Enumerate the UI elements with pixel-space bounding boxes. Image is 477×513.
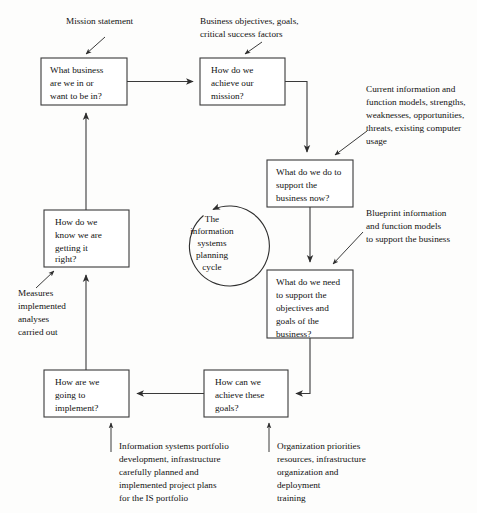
- annotation-is-portfolio-line-1: development, infrastructure: [119, 454, 221, 464]
- annotation-organization-priorities: Organization priorities resources, infra…: [269, 423, 366, 503]
- annotation-measures-implemented-pointer: [36, 271, 54, 288]
- annotation-mission-statement-line-0: Mission statement: [66, 16, 134, 26]
- annotation-organization-priorities-line-1: resources, infrastructure: [277, 454, 366, 464]
- box-what-business-line-2: want to be in?: [50, 91, 102, 101]
- annotation-business-objectives-line-1: critical success factors: [200, 29, 283, 39]
- annotation-current-information-line-3: threats, existing computer: [366, 123, 461, 133]
- box-what-do-we-need-line-2: objectives and: [276, 303, 329, 313]
- annotation-organization-priorities-line-2: organization and: [277, 467, 339, 477]
- box-how-do-we-know-line-2: getting it: [55, 243, 88, 253]
- box-achieve-these-goals-line-0: How can we: [215, 377, 261, 387]
- cycle-label-line-2: systems: [197, 238, 227, 248]
- box-support-business-now-line-0: What do we do to: [276, 167, 342, 177]
- annotation-business-objectives-pointer: [245, 42, 262, 54]
- annotation-blueprint-information-line-0: Blueprint information: [366, 208, 447, 218]
- diagram-canvas: What business are we in or want to be in…: [0, 0, 477, 513]
- annotation-organization-priorities-line-0: Organization priorities: [277, 441, 361, 451]
- annotation-measures-implemented-line-2: analyses: [18, 314, 50, 324]
- box-going-to-implement-line-1: going to: [55, 390, 86, 400]
- box-achieve-these-goals-line-1: achieve these: [215, 390, 264, 400]
- annotation-current-information-line-0: Current information and: [366, 84, 456, 94]
- annotation-business-objectives: Business objectives, goals, critical suc…: [200, 16, 299, 54]
- annotation-measures-implemented-line-0: Measures: [18, 288, 54, 298]
- box-support-business-now-line-1: support the: [276, 180, 317, 190]
- box-what-business-line-0: What business: [50, 65, 104, 75]
- box-what-do-we-need-line-0: What do we need: [276, 277, 340, 287]
- annotation-is-portfolio-line-3: implemented project plans: [119, 480, 217, 490]
- annotation-is-portfolio: Information systems portfolio developmen…: [111, 423, 229, 503]
- annotation-measures-implemented-line-1: implemented: [18, 301, 66, 311]
- box-what-business[interactable]: What business are we in or want to be in…: [41, 58, 127, 105]
- annotation-current-information-line-4: usage: [366, 136, 387, 146]
- annotation-business-objectives-line-0: Business objectives, goals,: [200, 16, 299, 26]
- annotation-is-portfolio-line-4: for the IS portfolio: [119, 493, 189, 503]
- annotation-organization-priorities-line-4: training: [277, 493, 306, 503]
- cycle-label-line-1: information: [190, 226, 234, 236]
- cycle-label-line-3: planning: [196, 250, 229, 260]
- annotation-mission-statement: Mission statement: [66, 16, 134, 54]
- connector-what-need-to-achieve-goals: [296, 338, 310, 394]
- box-going-to-implement[interactable]: How are we going to implement?: [44, 370, 129, 417]
- box-achieve-mission-line-0: How do we: [211, 65, 253, 75]
- annotation-is-portfolio-line-0: Information systems portfolio: [119, 441, 229, 451]
- box-what-do-we-need[interactable]: What do we need to support the objective…: [267, 270, 353, 339]
- box-achieve-mission-line-1: achieve our: [211, 78, 254, 88]
- annotation-current-information-line-2: weaknesses, opportunities,: [366, 110, 464, 120]
- annotation-mission-statement-pointer: [86, 37, 105, 54]
- annotation-blueprint-information-line-1: and function models: [366, 221, 441, 231]
- box-going-to-implement-line-2: implement?: [55, 403, 98, 413]
- annotation-measures-implemented: Measures implemented analyses carried ou…: [18, 271, 66, 337]
- box-what-do-we-need-line-3: goals of the: [276, 316, 319, 326]
- annotation-blueprint-information-line-2: to support the business: [366, 234, 450, 244]
- box-achieve-these-goals[interactable]: How can we achieve these goals?: [204, 370, 288, 417]
- box-achieve-mission[interactable]: How do we achieve our mission?: [200, 58, 285, 105]
- box-how-do-we-know[interactable]: How do we know we are getting it right?: [44, 210, 129, 267]
- annotation-current-information: Current information and function models,…: [335, 84, 466, 155]
- box-support-business-now-line-2: business now?: [276, 193, 329, 203]
- box-achieve-these-goals-line-2: goals?: [215, 403, 238, 413]
- annotation-blueprint-information-pointer: [333, 232, 363, 264]
- box-how-do-we-know-line-1: know we are: [55, 230, 102, 240]
- annotation-current-information-pointer: [335, 131, 367, 155]
- annotation-blueprint-information: Blueprint information and function model…: [333, 208, 450, 264]
- annotation-measures-implemented-line-3: carried out: [18, 327, 58, 337]
- planning-cycle-diagram: What business are we in or want to be in…: [0, 0, 477, 513]
- connector-achieve-mission-to-support-now: [285, 82, 307, 153]
- box-support-business-now[interactable]: What do we do to support the business no…: [267, 160, 353, 207]
- box-what-do-we-need-line-4: business?: [276, 329, 311, 339]
- box-how-do-we-know-line-0: How do we: [55, 217, 97, 227]
- annotation-is-portfolio-line-2: carefully planned and: [119, 467, 199, 477]
- box-what-do-we-need-line-1: to support the: [276, 290, 327, 300]
- cycle-label-line-4: cycle: [202, 262, 221, 272]
- box-going-to-implement-line-0: How are we: [55, 377, 99, 387]
- annotation-organization-priorities-line-3: deployment: [277, 480, 321, 490]
- annotation-current-information-line-1: function models, strengths,: [366, 97, 466, 107]
- box-how-do-we-know-line-3: right?: [55, 254, 76, 264]
- box-what-business-line-1: are we in or: [50, 78, 94, 88]
- box-achieve-mission-line-2: mission?: [211, 91, 244, 101]
- cycle-label-line-0: The: [205, 214, 219, 224]
